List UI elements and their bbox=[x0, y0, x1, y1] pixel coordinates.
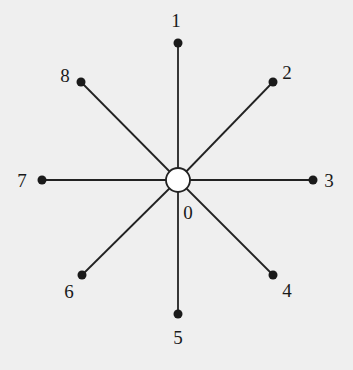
spoke-4 bbox=[178, 180, 273, 275]
center-node bbox=[166, 168, 190, 192]
node-5-label: 5 bbox=[173, 327, 183, 348]
node-8-label: 8 bbox=[60, 65, 70, 86]
node-7-label: 7 bbox=[17, 170, 27, 191]
node-7-dot bbox=[38, 176, 47, 185]
node-6-label: 6 bbox=[64, 281, 74, 302]
center-node-label: 0 bbox=[183, 202, 193, 223]
node-2-dot bbox=[269, 78, 278, 87]
spoke-6 bbox=[82, 180, 178, 275]
node-1-dot bbox=[174, 39, 183, 48]
node-3-label: 3 bbox=[324, 170, 334, 191]
node-4-label: 4 bbox=[282, 280, 292, 301]
star-diagram: 12345678 0 bbox=[0, 0, 353, 370]
node-5-dot bbox=[174, 310, 183, 319]
spoke-2 bbox=[178, 82, 273, 180]
node-6-dot bbox=[78, 271, 87, 280]
node-3-dot bbox=[309, 176, 318, 185]
node-1-label: 1 bbox=[171, 10, 181, 31]
node-2-label: 2 bbox=[282, 62, 292, 83]
node-4-dot bbox=[269, 271, 278, 280]
node-8-dot bbox=[77, 78, 86, 87]
spoke-8 bbox=[81, 82, 178, 180]
